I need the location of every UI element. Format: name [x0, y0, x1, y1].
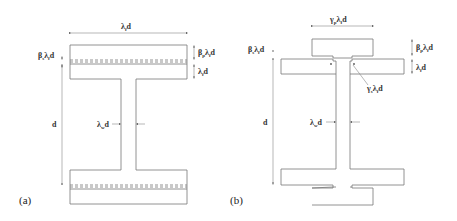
label-depth-b: d: [263, 118, 268, 127]
figure-b-dim-ticks: [272, 40, 413, 184]
label-lambda-f-b: λfd: [416, 63, 427, 73]
caption-a: (a): [19, 194, 32, 207]
label-web: λwd: [97, 120, 110, 130]
label-beta-s-b: βsλfd: [248, 45, 265, 55]
caption-b: (b): [230, 194, 243, 207]
right-profile: [350, 59, 404, 187]
figure-b-i-beam: [281, 39, 404, 205]
top-cover-plate: [312, 39, 373, 58]
slot-leader-line: [353, 65, 368, 85]
figure-a-dimensions: [62, 33, 194, 185]
label-slot: γsλfd: [366, 84, 383, 94]
figure-a-dim-ticks: [61, 46, 195, 185]
diagram-canvas: λfd βsλfd βpλfd λfd d λwd (a) γpλfd βsλf…: [0, 0, 457, 221]
bottom-cover-plate: [312, 187, 373, 205]
label-depth: d: [52, 120, 57, 129]
left-profile: [281, 59, 336, 187]
label-plate-width: γpλfd: [329, 15, 347, 25]
figure-a-i-beam: [70, 45, 187, 204]
label-flange-width: λfd: [121, 22, 132, 32]
label-web-b: λwd: [310, 118, 323, 128]
label-beta-s: βsλfd: [38, 51, 55, 61]
i-section-outline: [70, 45, 187, 204]
label-lambda-f: λfd: [198, 67, 209, 77]
label-beta-p-b: βpλfd: [416, 43, 434, 53]
figure-b-dimensions: [273, 26, 412, 185]
label-beta-p: βpλfd: [198, 48, 216, 58]
